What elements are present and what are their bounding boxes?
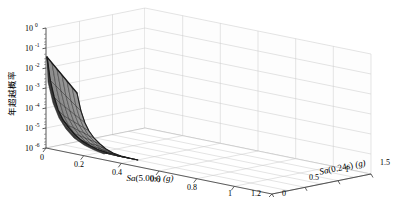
x-tick-label: 1.2	[251, 189, 261, 197]
x-tick-label: 0.2	[74, 160, 84, 169]
svg-text:Sa(5.00s) (g): Sa(5.00s) (g)	[127, 173, 174, 183]
z-title-unit: (g)	[354, 157, 366, 169]
y-axis-title: 年超越概率	[5, 71, 17, 116]
y-tick-mantissa: 10	[25, 84, 33, 93]
z-tick-label: 0	[282, 189, 286, 197]
y-tick-exponent: -1	[35, 42, 40, 48]
surface-plot-figure: 10 0 10 -1 10 -2 10 -3 10 -4 10 -5 10 -6	[0, 0, 406, 197]
x-tick-label: 0.4	[112, 168, 122, 177]
y-tick-mantissa: 10	[25, 104, 33, 113]
x-tick-label: 0	[40, 153, 44, 162]
y-axis-title-wrap: 年超越概率	[4, 58, 18, 128]
x-tick-label: 1	[228, 189, 232, 197]
y-tick-exponent: -4	[35, 102, 40, 108]
y-tick-mantissa: 10	[25, 44, 33, 53]
y-tick-mantissa: 10	[25, 64, 33, 73]
z-tick-label: 0.5	[309, 173, 319, 182]
z-tick-label: 1.5	[380, 158, 390, 167]
y-tick-mantissa: 10	[25, 144, 33, 153]
y-tick-exponent: -2	[35, 62, 40, 68]
x-title-unit: (g)	[163, 173, 174, 183]
x-tick-label: 0.8	[187, 183, 197, 192]
y-tick-exponent: -5	[35, 122, 40, 128]
y-tick-mantissa: 10	[25, 24, 33, 33]
y-tick-exponent: -3	[35, 82, 40, 88]
y-tick-mantissa: 10	[25, 124, 33, 133]
x-title-period: (5.00s)	[136, 173, 161, 183]
y-tick-exponent: 0	[35, 22, 38, 28]
x-axis-title: Sa(5.00s) (g)	[127, 173, 174, 183]
y-tick-exponent: -6	[35, 142, 40, 148]
